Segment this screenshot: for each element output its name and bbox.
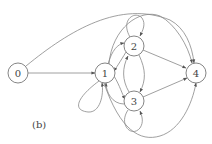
node-2-label: 2 bbox=[131, 41, 137, 52]
edge-1-4-lower bbox=[104, 83, 196, 137]
node-2: 2 bbox=[124, 36, 144, 56]
node-0-label: 0 bbox=[15, 68, 21, 79]
node-3-label: 3 bbox=[131, 96, 137, 107]
node-4-label: 4 bbox=[193, 68, 199, 79]
node-3: 3 bbox=[124, 91, 144, 111]
figure-caption: (b) bbox=[32, 119, 46, 130]
edge-3-3-loop bbox=[125, 110, 143, 132]
node-1: 1 bbox=[95, 63, 115, 83]
edge-1-3 bbox=[114, 76, 125, 99]
edge-1-4-upper bbox=[109, 14, 192, 64]
edge-2-4 bbox=[143, 50, 186, 68]
edge-3-4 bbox=[143, 78, 187, 97]
node-4: 4 bbox=[186, 63, 206, 83]
edge-3-1 bbox=[106, 83, 124, 104]
state-graph-diagram: 0 1 2 3 4 (b) bbox=[0, 0, 212, 144]
node-0: 0 bbox=[8, 63, 28, 83]
edge-1-1-loop bbox=[79, 81, 103, 112]
edge-3-2 bbox=[124, 56, 129, 92]
node-1-label: 1 bbox=[102, 68, 108, 79]
edge-2-3 bbox=[139, 55, 144, 92]
